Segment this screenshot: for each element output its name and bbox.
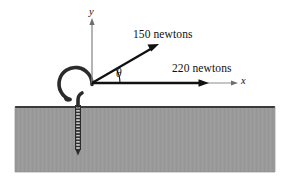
force-vector-220 bbox=[92, 79, 209, 87]
force-diagram-figure: 150 newtons 220 newtons y x θ bbox=[0, 0, 287, 184]
y-axis-label: y bbox=[89, 7, 94, 18]
ground-block bbox=[15, 107, 275, 173]
theta-angle-label: θ bbox=[116, 68, 122, 80]
force-label-220: 220 newtons bbox=[172, 63, 232, 75]
force-vector-150 bbox=[92, 44, 159, 83]
x-axis-label: x bbox=[241, 76, 246, 87]
force-label-150: 150 newtons bbox=[133, 29, 193, 41]
screw-shank bbox=[76, 105, 81, 156]
